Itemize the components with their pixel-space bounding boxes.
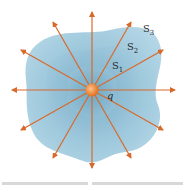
bottom-divider-right	[92, 182, 183, 185]
bottom-divider-left	[2, 182, 88, 185]
gauss-diagram	[0, 0, 185, 185]
point-charge	[86, 84, 99, 97]
label-charge-q: q	[107, 91, 113, 101]
label-s1: S1	[112, 61, 123, 74]
label-s2: S2	[127, 42, 138, 55]
label-s3: S3	[143, 24, 154, 37]
